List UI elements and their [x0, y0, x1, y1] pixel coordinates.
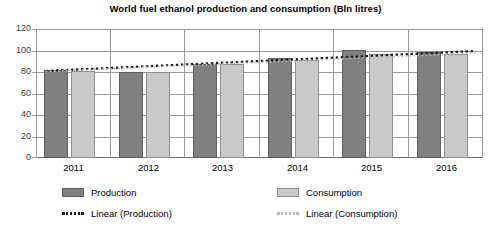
x-axis-label-2016: 2016: [409, 162, 484, 173]
legend-item-linear-production[interactable]: Linear (Production): [62, 208, 172, 219]
y-axis-label-20: 20: [0, 132, 31, 141]
chart-title: World fuel ethanol production and consum…: [0, 3, 491, 14]
chart-legend: ProductionConsumptionLinear (Production)…: [62, 187, 462, 227]
x-axis-label-2014: 2014: [260, 162, 335, 173]
x-axis-label-2013: 2013: [185, 162, 260, 173]
legend-item-consumption[interactable]: Consumption: [277, 187, 362, 198]
y-axis-label-40: 40: [0, 110, 31, 119]
x-axis-label-2015: 2015: [334, 162, 409, 173]
legend-swatch-icon: [277, 188, 299, 197]
legend-dotted-line-icon: [62, 209, 84, 218]
legend-dotted-line-icon: [277, 209, 299, 218]
trendline-consumption: [46, 53, 475, 71]
y-axis-label-0: 0: [0, 153, 31, 162]
x-axis-label-2011: 2011: [36, 162, 111, 173]
trendlines-layer: [36, 29, 483, 158]
legend-label: Consumption: [306, 187, 362, 198]
y-axis-label-80: 80: [0, 67, 31, 76]
y-axis-label-60: 60: [0, 89, 31, 98]
legend-label: Linear (Consumption): [306, 208, 397, 219]
legend-item-linear-consumption[interactable]: Linear (Consumption): [277, 208, 397, 219]
y-axis-label-100: 100: [0, 46, 31, 55]
legend-item-production[interactable]: Production: [62, 187, 136, 198]
x-axis-label-2012: 2012: [111, 162, 186, 173]
chart-container: World fuel ethanol production and consum…: [0, 0, 491, 230]
legend-swatch-icon: [62, 188, 84, 197]
legend-label: Linear (Production): [91, 208, 172, 219]
legend-label: Production: [91, 187, 136, 198]
y-axis-label-120: 120: [0, 24, 31, 33]
